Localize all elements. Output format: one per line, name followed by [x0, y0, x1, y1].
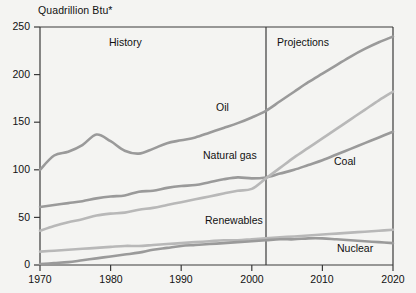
region-label-history: History [109, 37, 142, 48]
y-tick-250: 250 [0, 21, 30, 32]
x-tick-2000: 2000 [229, 274, 275, 285]
region-label-projections: Projections [277, 37, 329, 48]
series-label-coal: Coal [334, 156, 356, 167]
x-tick-2020: 2020 [370, 274, 416, 285]
x-axis-ticks [40, 265, 393, 271]
x-tick-1980: 1980 [88, 274, 134, 285]
series-label-natural-gas: Natural gas [203, 150, 257, 161]
y-tick-0: 0 [0, 259, 30, 270]
x-tick-1970: 1970 [17, 274, 63, 285]
chart-container: Quadrillion Btu* 250 200 150 [0, 0, 416, 293]
series-label-nuclear: Nuclear [337, 243, 373, 254]
y-tick-150: 150 [0, 116, 30, 127]
series-label-renewables: Renewables [205, 215, 263, 226]
y-tick-50: 50 [0, 212, 30, 223]
y-axis-ticks [34, 27, 40, 265]
x-tick-1990: 1990 [158, 274, 204, 285]
y-tick-200: 200 [0, 69, 30, 80]
y-tick-100: 100 [0, 164, 30, 175]
x-tick-2010: 2010 [299, 274, 345, 285]
series-label-oil: Oil [216, 102, 229, 113]
